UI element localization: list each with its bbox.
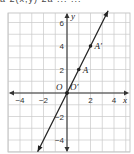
- x-tick-label: 2: [88, 96, 93, 105]
- point-label: A: [82, 65, 89, 75]
- y-tick-label: 2: [60, 66, 65, 75]
- grid-border: [8, 13, 130, 152]
- y-tick-label: −4: [55, 136, 65, 145]
- point-marker: [77, 68, 81, 72]
- point-label: O′: [70, 82, 79, 92]
- y-tick-label: 4: [60, 42, 65, 51]
- point-label: A′: [94, 41, 103, 51]
- x-tick-label: 4: [112, 96, 117, 105]
- y-axis-label: y: [70, 11, 75, 21]
- point-label: O: [56, 82, 63, 92]
- point-marker: [65, 91, 69, 95]
- x-tick-label: −4: [15, 96, 25, 105]
- point-marker: [89, 44, 93, 48]
- coordinate-plane: −4−224642−2−4xyOO′AA′: [0, 0, 134, 154]
- x-tick-label: −2: [39, 96, 49, 105]
- x-axis-label: x: [122, 95, 127, 105]
- y-tick-label: 6: [60, 19, 65, 28]
